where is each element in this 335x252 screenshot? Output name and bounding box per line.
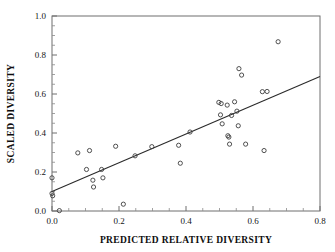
data-point-marker: [260, 90, 264, 94]
x-axis-tick-label: 0.2: [113, 216, 124, 226]
y-axis-tick-label: 0.8: [35, 50, 47, 60]
data-point-marker: [262, 148, 266, 152]
y-axis-tick-label: 0.2: [35, 167, 46, 177]
data-point-marker: [265, 89, 269, 93]
data-point-marker: [236, 124, 240, 128]
regression-line: [52, 76, 320, 191]
y-axis-tick-label: 1.0: [35, 11, 47, 21]
plot-canvas: 0.00.20.40.60.80.00.20.40.60.81.0PREDICT…: [0, 0, 335, 252]
data-point-marker: [177, 143, 181, 147]
data-point-marker: [218, 113, 222, 117]
x-axis-tick-label: 0.6: [247, 216, 259, 226]
data-point-marker: [225, 103, 229, 107]
data-point-marker: [178, 161, 182, 165]
x-axis-tick-label: 0.8: [314, 216, 326, 226]
data-point-marker: [240, 73, 244, 77]
y-axis-tick-label: 0.4: [35, 128, 47, 138]
y-axis-title: SCALED DIVERSITY: [6, 64, 16, 163]
data-point-marker: [84, 167, 88, 171]
data-point-marker: [237, 67, 241, 71]
scatter-plot-figure: 0.00.20.40.60.80.00.20.40.60.81.0PREDICT…: [0, 0, 335, 252]
data-point-marker: [227, 142, 231, 146]
data-point-marker: [121, 202, 125, 206]
data-point-marker: [114, 144, 118, 148]
data-point-marker: [244, 142, 248, 146]
data-point-marker: [232, 100, 236, 104]
x-axis-title: PREDICTED RELATIVE DIVERSITY: [100, 235, 272, 245]
data-point-marker: [101, 176, 105, 180]
data-point-marker: [276, 40, 280, 44]
y-axis-tick-label: 0.6: [35, 89, 47, 99]
data-point-marker: [91, 185, 95, 189]
x-axis-tick-label: 0.0: [46, 216, 58, 226]
data-point-marker: [76, 151, 80, 155]
x-axis-tick-label: 0.4: [180, 216, 192, 226]
data-point-marker: [220, 122, 224, 126]
data-point-marker: [87, 148, 91, 152]
data-point-marker: [91, 178, 95, 182]
y-axis-tick-label: 0.0: [35, 206, 47, 216]
